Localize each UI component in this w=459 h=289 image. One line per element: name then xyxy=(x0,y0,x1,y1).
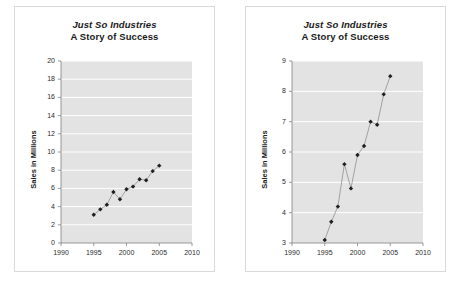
chart-panel-left: Just So Industries A Story of Success Sa… xyxy=(14,6,215,272)
y-axis-tick-label: 4 xyxy=(266,209,286,217)
y-axis-tick-label: 3 xyxy=(266,239,286,247)
y-axis-tick-label: 5 xyxy=(266,178,286,186)
y-axis-tick-label: 14 xyxy=(35,112,55,120)
plot-wrap-left: Sales in Millions 0246810121416182019901… xyxy=(15,7,214,271)
y-axis-tick-label: 6 xyxy=(266,148,286,156)
y-axis-tick-label: 2 xyxy=(35,221,55,229)
chart-page: Just So Industries A Story of Success Sa… xyxy=(0,0,459,289)
x-axis-tick-label: 1990 xyxy=(279,249,305,257)
x-axis-tick-label: 2005 xyxy=(146,249,172,257)
x-axis-tick-label: 2005 xyxy=(377,249,403,257)
x-axis-tick-label: 2010 xyxy=(410,249,436,257)
y-axis-tick-label: 8 xyxy=(35,166,55,174)
y-axis-tick-label: 18 xyxy=(35,75,55,83)
plot-wrap-right: Sales in Millions 3456789199019952000200… xyxy=(246,7,445,271)
y-axis-tick-label: 4 xyxy=(35,203,55,211)
chart-panel-right: Just So Industries A Story of Success Sa… xyxy=(245,6,446,272)
chart-svg-left xyxy=(15,7,216,273)
y-axis-tick-label: 10 xyxy=(35,148,55,156)
y-axis-tick-label: 9 xyxy=(266,57,286,65)
x-axis-tick-label: 1990 xyxy=(48,249,74,257)
y-axis-tick-label: 6 xyxy=(35,184,55,192)
x-axis-tick-label: 2000 xyxy=(114,249,140,257)
x-axis-tick-label: 1995 xyxy=(81,249,107,257)
y-axis-tick-label: 20 xyxy=(35,57,55,65)
x-axis-tick-label: 1995 xyxy=(312,249,338,257)
y-axis-tick-label: 0 xyxy=(35,239,55,247)
y-axis-tick-label: 8 xyxy=(266,87,286,95)
x-axis-tick-label: 2010 xyxy=(179,249,205,257)
y-axis-label-right: Sales in Millions xyxy=(260,120,269,200)
x-axis-tick-label: 2000 xyxy=(345,249,371,257)
chart-svg-right xyxy=(246,7,447,273)
y-axis-tick-label: 16 xyxy=(35,93,55,101)
y-axis-tick-label: 7 xyxy=(266,118,286,126)
y-axis-tick-label: 12 xyxy=(35,130,55,138)
